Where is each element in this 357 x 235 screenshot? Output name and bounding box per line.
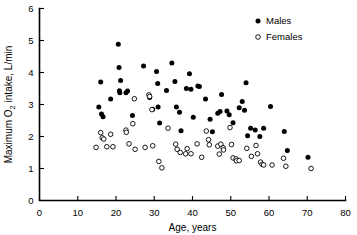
data-point-male xyxy=(125,89,130,94)
data-point-male xyxy=(218,109,223,114)
data-point-male xyxy=(227,112,232,117)
data-point-female xyxy=(228,125,233,130)
data-point-female xyxy=(101,137,106,142)
x-tick-label: 40 xyxy=(187,207,198,218)
data-point-female xyxy=(166,126,171,131)
data-point-female xyxy=(124,130,129,135)
x-tick-label: 60 xyxy=(264,207,275,218)
series-females xyxy=(94,93,314,171)
data-point-male xyxy=(208,117,213,122)
y-tick-label: 1 xyxy=(28,163,33,174)
data-point-male xyxy=(240,99,245,104)
data-point-male xyxy=(261,126,266,131)
data-point-male xyxy=(244,80,249,85)
x-tick-label: 80 xyxy=(340,207,351,218)
data-point-female xyxy=(178,150,183,155)
data-point-female xyxy=(249,154,254,159)
data-point-male xyxy=(210,129,215,134)
data-point-female xyxy=(183,151,188,156)
data-point-female xyxy=(207,143,212,148)
scatter-plot: 01020304050607080 0123456 MalesFemales A… xyxy=(0,0,357,235)
data-point-male xyxy=(108,97,113,102)
data-point-male xyxy=(156,105,161,110)
data-point-female xyxy=(98,130,103,135)
data-point-male xyxy=(306,155,311,160)
data-point-female xyxy=(131,121,136,126)
x-axis-title: Age, years xyxy=(169,222,217,233)
data-point-male xyxy=(237,105,242,110)
y-tick-label: 5 xyxy=(28,35,33,46)
x-tick-label: 20 xyxy=(111,207,122,218)
legend-marker-males xyxy=(256,19,261,24)
data-point-female xyxy=(105,144,110,149)
legend-label-females: Females xyxy=(266,31,303,42)
data-point-female xyxy=(127,142,132,147)
data-point-male xyxy=(257,134,262,139)
data-point-male xyxy=(116,42,121,47)
x-tick-label: 10 xyxy=(72,207,83,218)
data-point-female xyxy=(204,129,209,134)
data-point-male xyxy=(203,97,208,102)
data-point-male xyxy=(231,120,236,125)
data-point-male xyxy=(197,84,202,89)
data-point-male xyxy=(282,129,287,134)
data-points xyxy=(94,42,314,171)
data-point-male xyxy=(188,87,193,92)
x-tick-label: 0 xyxy=(37,207,42,218)
data-point-male xyxy=(242,108,247,113)
data-point-female xyxy=(284,164,289,169)
data-point-female xyxy=(254,143,259,148)
data-point-female xyxy=(229,142,234,147)
data-point-female xyxy=(173,142,178,147)
data-point-female xyxy=(189,151,194,156)
data-point-male xyxy=(172,79,177,84)
data-point-female xyxy=(150,143,155,148)
data-point-male xyxy=(184,86,189,91)
data-point-male xyxy=(248,126,253,131)
data-point-male xyxy=(96,105,101,110)
data-point-male xyxy=(253,128,258,133)
data-point-female xyxy=(281,156,286,161)
data-point-female xyxy=(132,96,137,101)
data-point-female xyxy=(133,147,138,152)
data-point-female xyxy=(160,166,165,171)
data-point-male xyxy=(98,80,103,85)
data-point-female xyxy=(255,151,260,156)
y-tick-labels: 0123456 xyxy=(28,3,33,206)
data-point-male xyxy=(191,115,196,120)
data-point-male xyxy=(154,69,159,74)
data-point-male xyxy=(118,78,123,83)
legend-marker-females xyxy=(256,35,261,40)
x-tick-labels: 01020304050607080 xyxy=(37,207,351,218)
data-point-male xyxy=(219,92,224,97)
data-point-female xyxy=(147,94,152,99)
data-point-male xyxy=(155,81,160,86)
data-point-female xyxy=(199,155,204,160)
data-point-female xyxy=(157,159,162,164)
data-point-female xyxy=(270,163,275,168)
data-point-male xyxy=(169,60,174,65)
axis-titles: Age, yearsMaximum O2 intake, L/min xyxy=(3,46,216,233)
data-point-male xyxy=(268,104,273,109)
data-point-female xyxy=(94,145,99,150)
data-point-male xyxy=(187,71,192,76)
data-point-male xyxy=(117,65,122,70)
y-tick-label: 4 xyxy=(28,67,33,78)
data-point-female xyxy=(150,107,155,112)
data-point-male xyxy=(174,105,179,110)
data-point-male xyxy=(157,121,162,126)
y-tick-label: 3 xyxy=(28,99,33,110)
y-axis-title: Maximum O2 intake, L/min xyxy=(3,46,17,164)
data-point-female xyxy=(309,166,314,171)
y-tick-label: 6 xyxy=(28,3,33,14)
data-point-female xyxy=(206,137,211,142)
data-point-male xyxy=(130,113,135,118)
data-point-male xyxy=(141,64,146,69)
chart-figure: 01020304050607080 0123456 MalesFemales A… xyxy=(0,0,357,235)
data-point-male xyxy=(177,110,182,115)
chart-legend: MalesFemales xyxy=(256,15,303,42)
data-point-male xyxy=(117,90,122,95)
data-point-female xyxy=(261,163,266,168)
data-point-male xyxy=(179,128,184,133)
data-point-female xyxy=(108,132,113,137)
